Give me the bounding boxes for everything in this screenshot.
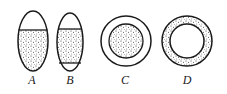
label-d: D — [182, 73, 192, 87]
diagram-canvas: A B C D — [0, 0, 227, 94]
shape-d: D — [0, 0, 227, 94]
shape-d-stippled-ring — [0, 0, 227, 94]
